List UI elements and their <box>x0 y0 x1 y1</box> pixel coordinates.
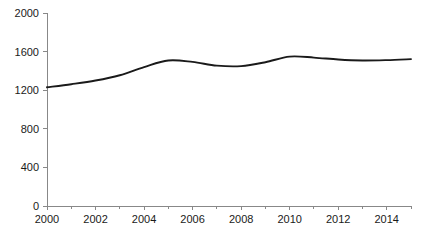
x-tick-label: 2002 <box>83 213 107 225</box>
y-tick-label: 1600 <box>15 46 39 58</box>
x-tick-label: 2006 <box>180 213 204 225</box>
x-tick-label: 2014 <box>374 213 398 225</box>
y-tick-label: 2000 <box>15 7 39 19</box>
x-tick-label: 2012 <box>326 213 350 225</box>
x-axis: 20002002200420062008201020122014 <box>35 206 412 225</box>
x-tick-label: 2010 <box>277 213 301 225</box>
y-tick-label: 1200 <box>15 84 39 96</box>
chart-canvas: 0400800120016002000 20002002200420062008… <box>0 0 422 245</box>
x-tick-label: 2008 <box>229 213 253 225</box>
x-tick-label: 2004 <box>132 213 156 225</box>
data-line-series-1 <box>47 56 411 87</box>
y-tick-label: 400 <box>21 161 39 173</box>
line-chart: 0400800120016002000 20002002200420062008… <box>0 0 422 245</box>
y-tick-label: 0 <box>33 200 39 212</box>
y-tick-label: 800 <box>21 123 39 135</box>
y-axis: 0400800120016002000 <box>15 7 47 212</box>
x-tick-label: 2000 <box>35 213 59 225</box>
data-series-group <box>47 56 411 87</box>
